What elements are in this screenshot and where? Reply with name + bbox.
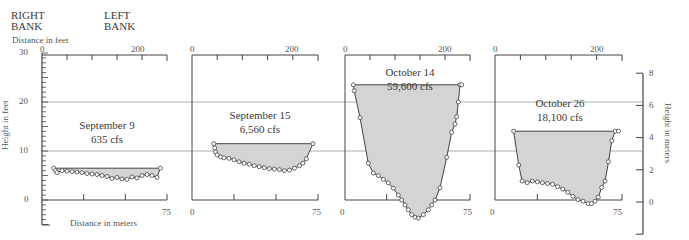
survey-point xyxy=(95,173,99,177)
survey-point xyxy=(301,161,305,165)
survey-point xyxy=(540,181,544,185)
survey-point xyxy=(55,171,59,175)
p1-x-feet-0: 0 xyxy=(40,44,45,54)
p4-x-meters-0: 0 xyxy=(490,207,495,217)
survey-point xyxy=(242,161,246,165)
survey-point xyxy=(105,174,109,178)
p4-x-feet-0: 0 xyxy=(493,44,498,54)
p1-x-feet-200: 200 xyxy=(131,44,145,54)
meter-tick-2: 2 xyxy=(649,165,654,175)
survey-point xyxy=(140,174,144,178)
survey-point xyxy=(517,163,521,167)
survey-point xyxy=(135,176,139,180)
survey-point xyxy=(396,193,400,197)
panel-title-sep15: September 15 6,560 cfs xyxy=(205,108,315,136)
survey-point xyxy=(80,171,84,175)
survey-point xyxy=(593,199,597,203)
survey-point xyxy=(600,186,604,190)
survey-point xyxy=(366,161,370,165)
survey-point xyxy=(292,166,296,170)
survey-point xyxy=(267,167,271,171)
survey-point xyxy=(445,155,449,159)
survey-point xyxy=(110,176,114,180)
survey-point xyxy=(453,122,457,126)
survey-point xyxy=(90,172,94,176)
survey-point xyxy=(571,194,575,198)
survey-point xyxy=(596,195,600,199)
survey-point xyxy=(386,181,390,185)
survey-point xyxy=(262,166,266,170)
survey-point xyxy=(403,203,407,207)
p3-x-feet-0: 0 xyxy=(343,44,348,54)
panel-flow: 635 cfs xyxy=(52,132,162,146)
survey-point xyxy=(381,177,385,181)
survey-point xyxy=(155,175,159,179)
survey-point xyxy=(145,173,149,177)
survey-point xyxy=(277,168,281,172)
survey-point xyxy=(512,129,516,133)
p4-x-meters-75: 75 xyxy=(613,207,622,217)
panel-date: September 15 xyxy=(205,108,315,122)
survey-point xyxy=(416,216,420,220)
survey-point xyxy=(455,115,459,119)
feet-tick-20: 20 xyxy=(19,96,28,106)
survey-point xyxy=(237,160,241,164)
survey-point xyxy=(247,162,251,166)
survey-point xyxy=(576,198,580,202)
survey-point xyxy=(530,179,534,183)
panel-title-sep9: September 9 635 cfs xyxy=(52,118,162,146)
survey-point xyxy=(222,156,226,160)
survey-point xyxy=(125,177,129,181)
channel-cross-section xyxy=(353,85,461,218)
survey-point xyxy=(252,164,256,168)
p4-x-feet-200: 200 xyxy=(590,44,604,54)
survey-point xyxy=(287,168,291,172)
p2-x-feet-0: 0 xyxy=(190,44,195,54)
survey-point xyxy=(358,116,362,120)
survey-point xyxy=(520,179,524,183)
survey-point xyxy=(371,171,375,175)
survey-point xyxy=(65,169,69,173)
survey-point xyxy=(433,198,437,202)
survey-point xyxy=(581,199,585,203)
survey-point xyxy=(115,175,119,179)
survey-point xyxy=(272,167,276,171)
survey-point xyxy=(282,169,286,173)
survey-point xyxy=(545,181,549,185)
survey-point xyxy=(257,165,261,169)
survey-point xyxy=(158,166,162,170)
survey-point xyxy=(232,158,236,162)
survey-point xyxy=(400,198,404,202)
p2-x-meters-0: 0 xyxy=(190,207,195,217)
survey-point xyxy=(430,203,434,207)
survey-point xyxy=(406,208,410,212)
meter-tick-0: 0 xyxy=(649,197,654,207)
survey-point xyxy=(213,146,217,150)
survey-point xyxy=(551,182,555,186)
panel-title-oct14: October 14 59,600 cfs xyxy=(355,65,465,93)
meter-tick-8: 8 xyxy=(649,68,654,78)
feet-tick-10: 10 xyxy=(19,145,28,155)
p1-x-meters-75: 75 xyxy=(162,207,171,217)
panel-date: September 9 xyxy=(52,118,162,132)
distance-meters-label: Distance in meters xyxy=(70,219,137,228)
feet-tick-0: 0 xyxy=(24,194,29,204)
survey-point xyxy=(227,156,231,160)
survey-point xyxy=(60,169,64,173)
survey-point xyxy=(617,129,621,133)
survey-point xyxy=(100,174,104,178)
survey-point xyxy=(376,174,380,178)
meter-tick-6: 6 xyxy=(649,100,654,110)
survey-point xyxy=(130,175,134,179)
meter-tick-4: 4 xyxy=(649,132,654,142)
survey-point xyxy=(75,170,79,174)
survey-point xyxy=(120,177,124,181)
p2-x-feet-200: 200 xyxy=(285,44,299,54)
survey-point xyxy=(603,179,607,183)
survey-point xyxy=(426,208,430,212)
panel-date: October 26 xyxy=(505,96,615,110)
feet-tick-30: 30 xyxy=(19,47,28,57)
survey-point xyxy=(525,181,529,185)
panel-title-oct26: October 26 18,100 cfs xyxy=(505,96,615,124)
survey-point xyxy=(391,186,395,190)
